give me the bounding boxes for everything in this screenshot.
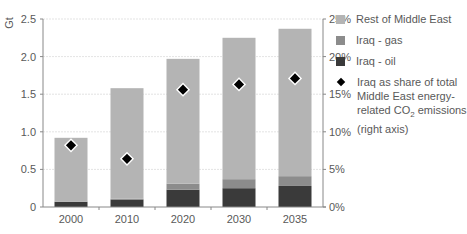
y2-tick-label: 0%	[329, 201, 345, 213]
bar-segment	[167, 184, 200, 190]
legend-label: Iraq as share of total Middle East energ…	[357, 75, 467, 136]
legend-label: Iraq - gas	[356, 33, 467, 47]
legend-label: Rest of Middle East	[356, 12, 467, 26]
diamond-marker-icon	[337, 78, 345, 86]
legend-item-rest: Rest of Middle East	[336, 12, 467, 26]
bar-segment	[111, 199, 144, 200]
y-tick-label: 1.5	[21, 88, 36, 100]
legend-label: Iraq - oil	[356, 54, 467, 68]
bar-segment	[279, 29, 312, 176]
bar-segment	[55, 202, 88, 207]
y-tick-label: 2.0	[21, 51, 36, 63]
legend-item-gas: Iraq - gas	[336, 33, 467, 47]
x-tick-label: 2020	[171, 213, 195, 225]
bar-segment	[223, 179, 256, 188]
y-axis-label: Gt	[3, 17, 15, 29]
x-tick-label: 2000	[59, 213, 83, 225]
x-tick-label: 2030	[227, 213, 251, 225]
x-tick-label: 2035	[283, 213, 307, 225]
y-tick-label: 0	[30, 201, 36, 213]
bar-segment	[167, 190, 200, 207]
legend: Rest of Middle East Iraq - gas Iraq - oi…	[336, 12, 467, 143]
legend-swatch-icon	[336, 36, 345, 45]
bar-segment	[223, 188, 256, 207]
x-tick-label: 2010	[115, 213, 139, 225]
bar-segment	[279, 186, 312, 207]
y2-tick-label: 5%	[329, 163, 345, 175]
bar-series	[55, 29, 312, 207]
bar-segment	[111, 88, 144, 199]
bar-segment	[167, 59, 200, 184]
y-tick-label: 2.5	[21, 13, 36, 25]
bar-segment	[111, 199, 144, 207]
bar-segment	[223, 38, 256, 179]
legend-item-share: Iraq as share of total Middle East energ…	[336, 75, 467, 136]
y-tick-label: 0.5	[21, 163, 36, 175]
legend-swatch-icon	[336, 57, 345, 66]
legend-swatch-icon	[336, 15, 345, 24]
legend-item-oil: Iraq - oil	[336, 54, 467, 68]
bar-segment	[279, 176, 312, 186]
y-tick-label: 1.0	[21, 126, 36, 138]
